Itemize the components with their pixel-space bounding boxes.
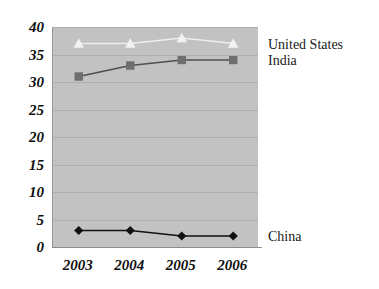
marker-china-2005 bbox=[177, 231, 186, 240]
x-axis-tick-2005: 2005 bbox=[166, 258, 196, 273]
gridline-30 bbox=[53, 82, 258, 83]
series-label-china: China bbox=[268, 230, 301, 244]
gridline-20 bbox=[53, 137, 258, 138]
series-line-india bbox=[79, 60, 234, 77]
marker-china-2003 bbox=[74, 226, 83, 235]
marker-china-2004 bbox=[126, 226, 135, 235]
gridline-25 bbox=[53, 110, 258, 111]
marker-india-2003 bbox=[75, 72, 83, 80]
marker-india-2004 bbox=[126, 61, 134, 69]
marker-united-states-2005 bbox=[176, 33, 187, 43]
gridline-40 bbox=[53, 27, 258, 28]
marker-china-2006 bbox=[229, 231, 238, 240]
marker-india-2006 bbox=[229, 56, 237, 64]
x-axis-tick-2006: 2006 bbox=[217, 258, 247, 273]
plot-area bbox=[52, 27, 258, 247]
line-chart: 0510152025303540 2003200420052006 United… bbox=[0, 0, 379, 289]
gridline-15 bbox=[53, 165, 258, 166]
gridline-10 bbox=[53, 192, 258, 193]
series-line-china bbox=[79, 231, 234, 237]
series-line-united-states bbox=[79, 38, 234, 44]
x-axis-tick-2003: 2003 bbox=[63, 258, 93, 273]
series-label-united-states: United States bbox=[268, 38, 343, 52]
x-axis-tick-2004: 2004 bbox=[114, 258, 144, 273]
gridline-5 bbox=[53, 220, 258, 221]
series-label-india: India bbox=[268, 54, 297, 68]
marker-india-2005 bbox=[178, 56, 186, 64]
x-axis-line bbox=[52, 247, 262, 248]
gridline-35 bbox=[53, 55, 258, 56]
